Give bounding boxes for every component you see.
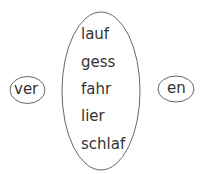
prefix-label: ver xyxy=(14,82,38,97)
stem-item: fahr xyxy=(81,82,111,97)
stem-item: gess xyxy=(81,55,115,70)
stem-item: schlaf xyxy=(81,137,125,152)
suffix-label: en xyxy=(167,81,186,96)
stem-item: lauf xyxy=(81,27,109,42)
stem-item: lier xyxy=(81,109,105,124)
